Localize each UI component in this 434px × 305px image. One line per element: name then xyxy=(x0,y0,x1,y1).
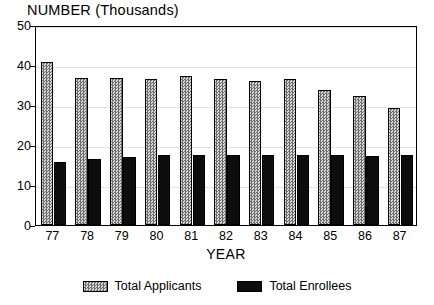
bar-chart: NUMBER (Thousands) 01020304050 777879808… xyxy=(0,0,434,305)
bar-total-enrollees xyxy=(193,155,206,225)
x-axis-labels: 7778798081828384858687 xyxy=(35,229,417,247)
bar-total-enrollees xyxy=(262,155,275,225)
bar-total-enrollees xyxy=(54,162,67,225)
x-tick-label: 80 xyxy=(139,229,174,243)
bar-total-applicants xyxy=(110,78,123,225)
legend-entry: Total Applicants xyxy=(83,280,202,293)
bar-group xyxy=(353,27,379,225)
x-tick-label: 87 xyxy=(382,229,417,243)
x-tick-label: 82 xyxy=(209,229,244,243)
bar-total-enrollees xyxy=(366,156,379,225)
y-tick-mark xyxy=(30,226,35,227)
x-tick-label: 83 xyxy=(243,229,278,243)
bar-group xyxy=(214,27,240,225)
bar-total-applicants xyxy=(353,96,366,225)
bar-total-enrollees xyxy=(227,155,240,225)
x-tick-label: 78 xyxy=(70,229,105,243)
bar-total-enrollees xyxy=(88,159,101,225)
bar-total-applicants xyxy=(75,78,88,225)
legend-swatch-enrollees xyxy=(237,281,262,292)
bar-total-applicants xyxy=(249,81,262,225)
y-tick-label: 40 xyxy=(1,60,31,72)
x-tick-label: 79 xyxy=(104,229,139,243)
x-tick-label: 84 xyxy=(278,229,313,243)
bar-total-enrollees xyxy=(331,155,344,225)
bar-total-applicants xyxy=(41,62,54,225)
bar-total-enrollees xyxy=(158,155,171,225)
chart-legend: Total ApplicantsTotal Enrollees xyxy=(0,277,434,295)
y-axis-labels: 01020304050 xyxy=(0,26,31,226)
bar-group xyxy=(318,27,344,225)
y-tick-label: 30 xyxy=(1,100,31,112)
bar-group xyxy=(180,27,206,225)
x-axis-title: YEAR xyxy=(35,246,417,262)
bar-total-enrollees xyxy=(123,157,136,225)
legend-entry: Total Enrollees xyxy=(237,280,351,293)
chart-title: NUMBER (Thousands) xyxy=(27,2,179,18)
legend-swatch-applicants xyxy=(83,281,108,292)
bar-total-applicants xyxy=(284,79,297,225)
x-tick-label: 85 xyxy=(313,229,348,243)
y-tick-label: 50 xyxy=(1,20,31,32)
bar-group xyxy=(75,27,101,225)
plot-frame xyxy=(35,26,417,226)
legend-label: Total Enrollees xyxy=(269,280,351,293)
bar-total-applicants xyxy=(214,79,227,225)
plot-area xyxy=(36,27,416,225)
bar-total-applicants xyxy=(388,108,401,225)
bar-total-enrollees xyxy=(297,155,310,225)
bar-group xyxy=(388,27,414,225)
bar-total-applicants xyxy=(145,79,158,225)
bar-group xyxy=(41,27,67,225)
legend-label: Total Applicants xyxy=(115,280,202,293)
bar-total-applicants xyxy=(318,90,331,225)
bar-group xyxy=(284,27,310,225)
bar-group xyxy=(249,27,275,225)
y-tick-label: 10 xyxy=(1,180,31,192)
y-tick-label: 0 xyxy=(1,220,31,232)
bar-total-applicants xyxy=(180,76,193,225)
x-tick-label: 77 xyxy=(35,229,70,243)
bar-group xyxy=(145,27,171,225)
x-tick-label: 86 xyxy=(348,229,383,243)
bar-total-enrollees xyxy=(401,155,414,225)
x-tick-label: 81 xyxy=(174,229,209,243)
y-tick-label: 20 xyxy=(1,140,31,152)
bar-group xyxy=(110,27,136,225)
